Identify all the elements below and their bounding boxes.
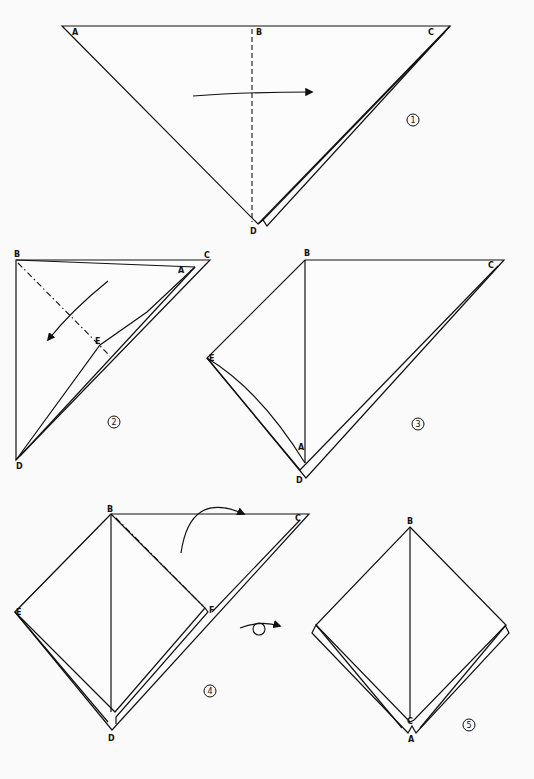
step4-label-c: C (295, 514, 301, 523)
step5-label-b: B (407, 517, 413, 526)
step2-label-e: E (95, 337, 100, 346)
step-3: B C E A D 3 (207, 249, 504, 485)
step2-number: 2 (111, 418, 116, 427)
step1-label-d: D (250, 227, 257, 236)
step3-label-c: C (488, 261, 494, 270)
step-1: A B C D 1 (62, 26, 450, 236)
step-2: B C A E D 2 (14, 250, 210, 471)
step-5: B C A 5 (312, 517, 509, 744)
step1-label-c: C (428, 28, 434, 37)
step1-number: 1 (410, 116, 415, 125)
step3-outline (207, 260, 504, 478)
step4-label-b: B (107, 505, 113, 514)
step1-triangle (62, 26, 450, 224)
step2-label-b: B (14, 250, 20, 259)
step3-label-d: D (296, 476, 303, 485)
step5-front-square (316, 527, 506, 722)
step5-label-c: C (407, 717, 413, 726)
step2-label-a: A (178, 266, 185, 275)
step3-label-e: E (209, 354, 214, 363)
step4-label-f: F (209, 606, 214, 615)
step1-label-a: A (72, 28, 79, 37)
step2-triangle (16, 260, 210, 460)
step5-label-a: A (408, 735, 415, 744)
step5-number: 5 (466, 721, 471, 730)
step4-label-d: D (108, 734, 115, 743)
step3-label-a: A (298, 443, 305, 452)
origami-diagram: A B C D 1 B C A E D 2 B C E A D 3 (0, 0, 534, 779)
turn-over-icon (240, 623, 280, 635)
step2-label-d: D (16, 462, 23, 471)
step2-label-c: C (204, 251, 210, 260)
step3-label-b: B (304, 249, 310, 258)
step4-number: 4 (207, 687, 212, 696)
step3-number: 3 (415, 420, 420, 429)
step1-label-b: B (256, 28, 262, 37)
step4-label-e: E (16, 608, 21, 617)
